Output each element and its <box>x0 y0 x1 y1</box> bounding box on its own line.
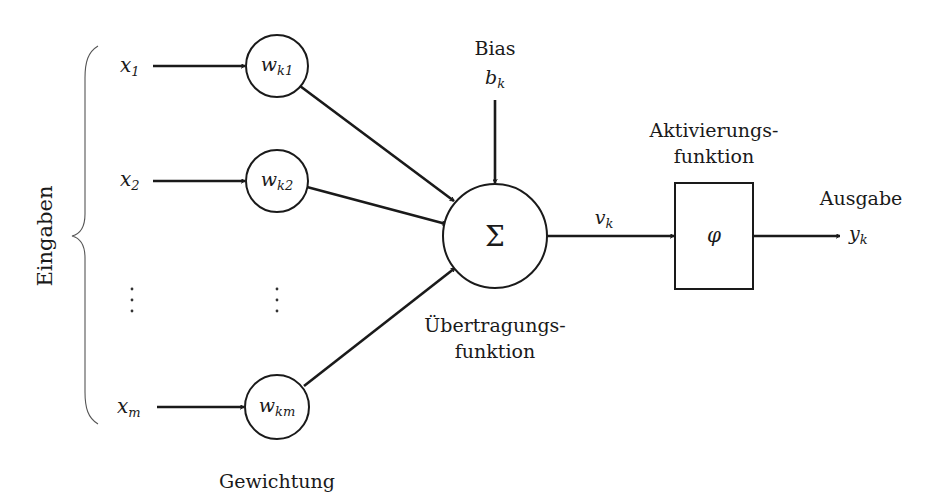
bias-label: Bias <box>474 37 515 59</box>
activation-box: φ <box>675 183 753 289</box>
net-output-var: vk <box>595 206 614 231</box>
svg-text:x2: x2 <box>120 167 140 193</box>
weight-node-wk2: wk2 <box>246 150 308 212</box>
inputs-ellipsis <box>131 288 134 313</box>
weight-node-wk1: wk1 <box>246 35 308 97</box>
bias-var: bk <box>485 66 505 91</box>
input-x1: x1 <box>120 53 140 79</box>
activation-function-label-1: Aktivierungs- <box>649 119 779 141</box>
input-xm: xm <box>117 394 141 420</box>
input-x2: x2 <box>120 167 140 193</box>
svg-text:xm: xm <box>117 394 141 420</box>
output-label: Ausgabe <box>819 187 903 209</box>
activation-function-label-2: funktion <box>674 145 754 167</box>
edge-wk1-sum <box>300 86 454 201</box>
weights-group-label: Gewichtung <box>219 470 335 492</box>
edge-wk2-sum <box>307 187 446 224</box>
svg-text:x1: x1 <box>120 53 140 79</box>
transfer-function-label-1: Übertragungs- <box>424 314 566 336</box>
output-var: yk <box>848 222 868 247</box>
inputs-group-label: Eingaben <box>33 186 57 287</box>
neuron-diagram: Eingaben x1 x2 xm wk1 wk2 wkm Gewic <box>0 0 935 504</box>
activation-symbol: φ <box>707 223 721 247</box>
weight-node-wkm: wkm <box>245 375 309 439</box>
weights-ellipsis <box>276 288 279 313</box>
inputs-brace <box>72 46 98 424</box>
sum-node: Σ <box>443 184 547 288</box>
sum-symbol: Σ <box>485 220 505 253</box>
transfer-function-label-2: funktion <box>455 340 535 362</box>
